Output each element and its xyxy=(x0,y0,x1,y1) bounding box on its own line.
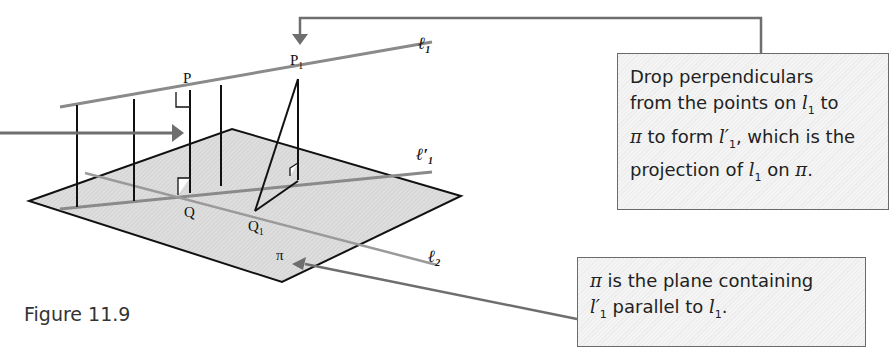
figure-caption: Figure 11.9 xyxy=(24,303,130,325)
line-l1 xyxy=(60,42,432,107)
label-Q: Q xyxy=(184,205,195,220)
label-pi: π xyxy=(276,248,284,263)
label-l1-prime: ℓ′1 xyxy=(416,146,433,166)
callout1-line4: projection of l1 on π. xyxy=(630,157,876,191)
label-P1: P1 xyxy=(290,53,303,71)
connector-box2-to-pi xyxy=(305,264,577,319)
label-Q1: Q1 xyxy=(248,219,264,237)
callout-projection: Drop perpendiculars from the points on l… xyxy=(617,53,889,210)
callout1-line3: π to form l′1, which is the xyxy=(630,124,876,158)
connector-box1-to-P1 xyxy=(300,18,761,53)
label-P: P xyxy=(183,71,191,86)
right-angle-P xyxy=(176,92,190,107)
callout2-line1: π is the plane containing xyxy=(590,268,853,294)
label-l1: ℓ1 xyxy=(418,35,430,55)
callout2-line2: l′1 parallel to l1. xyxy=(590,294,853,328)
arrowhead-left-icon xyxy=(172,124,184,142)
arrowhead-down-icon xyxy=(292,34,308,45)
callout1-line1: Drop perpendiculars xyxy=(630,64,876,90)
callout-plane: π is the plane containing l′1 parallel t… xyxy=(577,257,866,347)
callout1-line2: from the points on l1 to xyxy=(630,90,876,124)
label-l2: ℓ2 xyxy=(428,248,440,268)
